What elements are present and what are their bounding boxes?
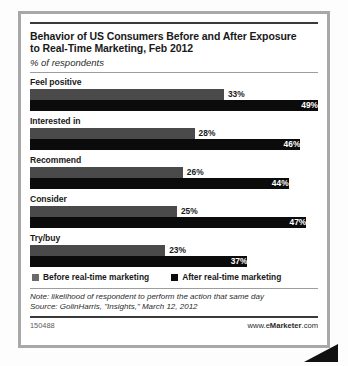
- top-rule: [30, 22, 318, 24]
- bar-value-after: 46%: [30, 139, 304, 150]
- chart-note: Note: likelihood of respondent to perfor…: [30, 292, 318, 312]
- chart-title: Behavior of US Consumers Before and Afte…: [30, 30, 318, 54]
- bar-value-before: 33%: [224, 89, 245, 100]
- bar-value-before: 23%: [165, 245, 186, 256]
- legend-label-after: After real-time marketing: [182, 272, 281, 282]
- url-prefix: www.e: [247, 321, 269, 330]
- bar-before: [30, 167, 183, 178]
- url-brand: Marketer: [270, 321, 302, 330]
- bar-value-after: 47%: [30, 217, 310, 228]
- source-text: Source: GolinHarris, "Insights," March 1…: [30, 302, 318, 312]
- bar-row-before: 26%: [30, 167, 318, 178]
- title-divider: [30, 72, 318, 73]
- bar-chart-plot: Feel positive33%49%Interested in28%46%Re…: [30, 77, 318, 267]
- bar-group: Consider25%47%: [30, 194, 318, 228]
- chart-footer: 150488 www.eMarketer.com: [30, 321, 318, 330]
- bar-row-after: 44%: [30, 178, 318, 189]
- bar-row-before: 28%: [30, 128, 318, 139]
- bar-group: Feel positive33%49%: [30, 77, 318, 111]
- bar-group-label: Try/buy: [30, 233, 318, 244]
- bar-group: Try/buy23%37%: [30, 233, 318, 267]
- bar-group-label: Interested in: [30, 116, 318, 127]
- bar-group: Recommend26%44%: [30, 155, 318, 189]
- chart-subtitle: % of respondents: [30, 57, 318, 68]
- note-text: Note: likelihood of respondent to perfor…: [30, 292, 318, 302]
- bar-value-after: 37%: [30, 256, 251, 267]
- legend-item-before: Before real-time marketing: [32, 272, 149, 282]
- legend-divider: [30, 288, 318, 289]
- bar-value-after: 44%: [30, 178, 293, 189]
- bar-row-after: 47%: [30, 217, 318, 228]
- bar-value-before: 28%: [195, 128, 216, 139]
- footer-divider: [30, 316, 318, 318]
- chart-title-line1: Behavior of US Consumers Before and Afte…: [30, 30, 318, 42]
- chart-title-line2: to Real-Time Marketing, Feb 2012: [30, 42, 318, 54]
- bar-group-label: Feel positive: [30, 77, 318, 88]
- chart-panel: Behavior of US Consumers Before and Afte…: [21, 14, 327, 345]
- legend-swatch-after-icon: [171, 274, 178, 281]
- bar-row-before: 25%: [30, 206, 318, 217]
- legend-label-before: Before real-time marketing: [43, 272, 149, 282]
- bar-group-label: Recommend: [30, 155, 318, 166]
- bar-row-before: 23%: [30, 245, 318, 256]
- legend-swatch-before-icon: [32, 274, 39, 281]
- bar-value-before: 26%: [183, 167, 204, 178]
- emarketer-url: www.eMarketer.com: [247, 321, 318, 330]
- bar-before: [30, 89, 224, 100]
- chart-legend: Before real-time marketing After real-ti…: [30, 272, 318, 282]
- bar-before: [30, 128, 195, 139]
- chart-id: 150488: [30, 321, 55, 330]
- url-suffix: .com: [302, 321, 318, 330]
- bar-row-after: 46%: [30, 139, 318, 150]
- bar-row-before: 33%: [30, 89, 318, 100]
- bar-value-after: 49%: [30, 100, 322, 111]
- chart-frame: Behavior of US Consumers Before and Afte…: [18, 11, 330, 348]
- bar-row-after: 49%: [30, 100, 318, 111]
- bar-value-before: 25%: [177, 206, 198, 217]
- bar-before: [30, 206, 177, 217]
- bar-before: [30, 245, 165, 256]
- legend-item-after: After real-time marketing: [171, 272, 281, 282]
- bar-group: Interested in28%46%: [30, 116, 318, 150]
- bar-row-after: 37%: [30, 256, 318, 267]
- bar-group-label: Consider: [30, 194, 318, 205]
- chart-screenshot: Behavior of US Consumers Before and Afte…: [0, 0, 348, 366]
